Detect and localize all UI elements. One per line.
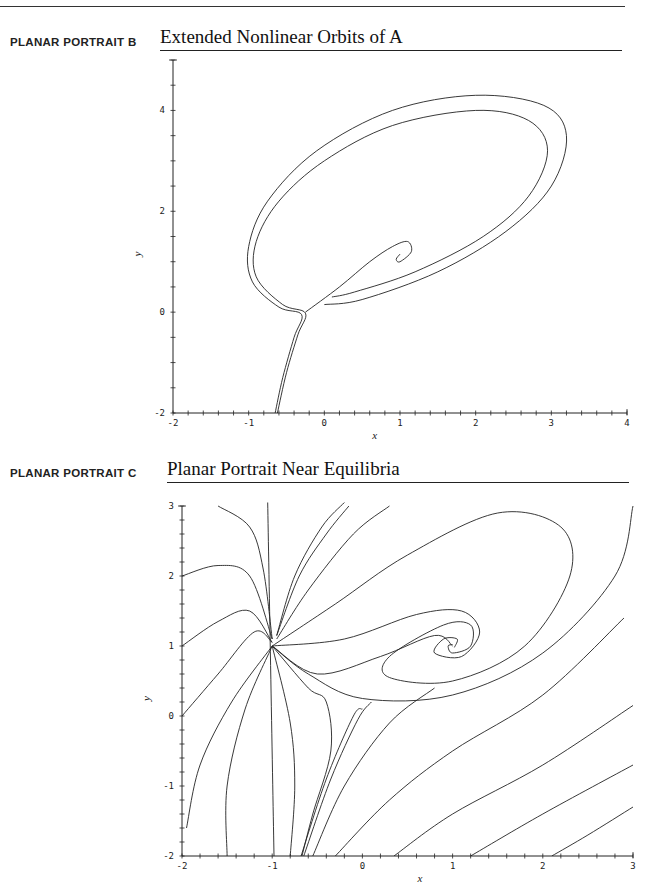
x-tick-label: -2: [177, 861, 188, 871]
trajectory-curve: [277, 503, 345, 636]
trajectory-curve: [304, 702, 372, 856]
trajectory-curve: [272, 646, 295, 856]
trajectory-curve: [471, 765, 633, 856]
trajectory-curve: [277, 506, 390, 639]
trajectory-curve: [277, 506, 349, 636]
trajectory-curve: [182, 610, 272, 646]
trajectories: [182, 503, 633, 857]
x-tick-label: 3: [630, 861, 635, 871]
trajectory-curve: [272, 646, 331, 856]
trajectory-curve: [218, 506, 272, 639]
trajectory-curve: [182, 631, 272, 716]
y-tick-label: -1: [163, 781, 174, 791]
y-tick-label: 3: [169, 501, 174, 511]
planar-portrait-c-chart: -2-10123-2-10123xy: [0, 0, 652, 887]
x-tick-label: 0: [360, 861, 365, 871]
y-axis-label: y: [140, 696, 152, 702]
trajectory-curve: [313, 688, 435, 856]
trajectory-curve: [272, 512, 573, 684]
x-tick-label: 2: [540, 861, 545, 871]
trajectory-curve: [272, 610, 479, 658]
trajectory-curve: [268, 503, 274, 857]
y-tick-label: -2: [163, 851, 174, 861]
trajectory-curve: [272, 506, 633, 701]
x-axis-label: x: [417, 872, 423, 884]
trajectory-curve: [552, 807, 633, 856]
trajectory-curve: [182, 565, 272, 639]
trajectory-curve: [226, 646, 272, 856]
y-tick-label: 2: [169, 571, 174, 581]
y-tick-label: 0: [169, 711, 174, 721]
y-tick-label: 1: [169, 641, 174, 651]
trajectory-curve: [394, 706, 633, 857]
x-tick-label: 1: [450, 861, 455, 871]
trajectory-curve: [335, 618, 624, 856]
x-tick-label: -1: [267, 861, 278, 871]
